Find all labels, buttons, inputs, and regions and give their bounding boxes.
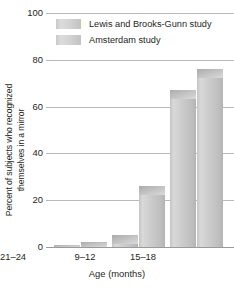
bar-cap-icon — [54, 245, 80, 247]
bar-15-18-lewis[interactable] — [112, 235, 138, 247]
chart-legend: Lewis and Brooks-Gunn study Amsterdam st… — [56, 17, 212, 49]
x-tick-label-21-24: 21–24 — [0, 252, 26, 261]
x-tick-label-9-12: 9–12 — [54, 252, 116, 261]
x-axis-title: Age (months) — [0, 269, 234, 278]
y-axis-title-line1: Percent of subjects who recognized — [4, 84, 16, 216]
bar-9-12-lewis[interactable] — [54, 245, 80, 247]
y-tick-label-60: 60 — [19, 102, 43, 111]
bar-cap-icon — [81, 242, 107, 247]
bar-9-12-amsterdam[interactable] — [81, 242, 107, 247]
bar-cap-icon — [139, 186, 165, 195]
legend-swatch-icon — [56, 19, 81, 29]
legend-item-amsterdam[interactable]: Amsterdam study — [56, 33, 212, 47]
legend-item-lewis[interactable]: Lewis and Brooks-Gunn study — [56, 17, 212, 31]
bar-21-24-lewis[interactable] — [170, 90, 196, 247]
y-tick-label-80: 80 — [19, 55, 43, 64]
bar-cap-icon — [112, 235, 138, 244]
y-tick-label-0: 0 — [19, 242, 43, 251]
bar-cap-icon — [170, 90, 196, 99]
bar-cap-icon — [197, 69, 223, 78]
legend-label-amsterdam: Amsterdam study — [89, 35, 160, 45]
bar-15-18-amsterdam[interactable] — [139, 186, 165, 247]
x-axis-baseline — [46, 247, 234, 248]
bar-chart-figure: Percent of subjects who recognized thems… — [0, 0, 234, 290]
legend-swatch-icon — [56, 35, 81, 45]
legend-label-lewis: Lewis and Brooks-Gunn study — [89, 19, 212, 29]
y-tick-label-40: 40 — [19, 148, 43, 157]
y-tick-label-100: 100 — [19, 8, 43, 17]
y-tick-label-20: 20 — [19, 195, 43, 204]
x-tick-label-15-18: 15–18 — [112, 252, 174, 261]
bar-21-24-amsterdam[interactable] — [197, 69, 223, 247]
